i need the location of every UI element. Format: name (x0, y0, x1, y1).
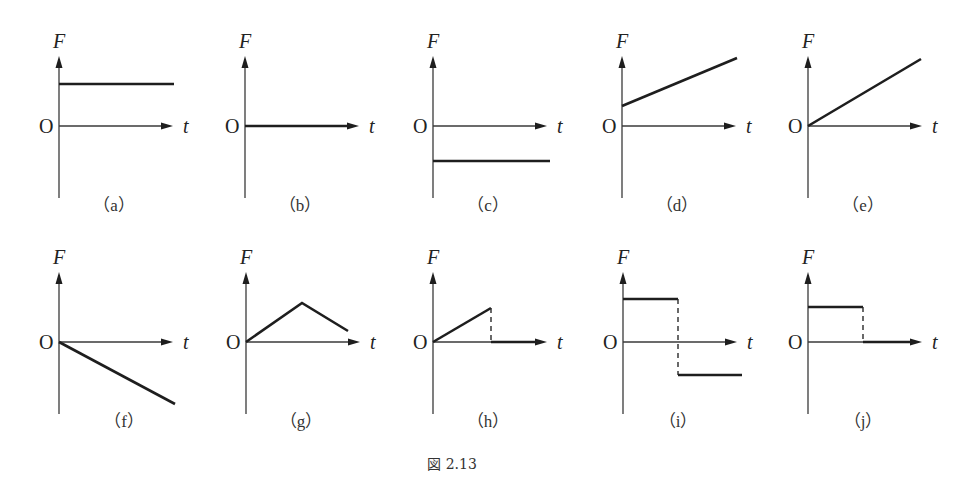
axis-label-f: F (801, 30, 815, 52)
data-line (246, 303, 348, 342)
axis-label-f: F (615, 30, 629, 52)
axis-label-t: t (932, 115, 938, 137)
axis-label-t: t (183, 331, 189, 353)
axes (619, 56, 737, 198)
origin-label: O (788, 331, 802, 353)
origin-label: O (225, 115, 239, 137)
origin-label: O (39, 331, 53, 353)
panel-label: （a） (93, 196, 135, 215)
panel-label: （f） (104, 412, 144, 431)
data-line-rise (433, 308, 491, 342)
origin-label: O (603, 331, 617, 353)
figure-2-13: F O t （a） F O t （b） F O t （c） F O t （d） … (0, 0, 964, 482)
origin-label: O (788, 115, 802, 137)
axis-label-f: F (52, 246, 66, 268)
axis-label-t: t (747, 331, 753, 353)
axis-label-t: t (557, 115, 563, 137)
axis-label-f: F (238, 30, 252, 52)
axis-label-f: F (616, 246, 630, 268)
panel-g: F O t （g） (226, 246, 376, 431)
panel-i: F O t （i） (603, 246, 753, 431)
panel-label: （d） (656, 196, 699, 215)
axes (805, 56, 923, 198)
panel-c: F O t （c） (413, 30, 563, 215)
axis-label-t: t (932, 331, 938, 353)
origin-label: O (602, 115, 616, 137)
data-line (622, 58, 737, 106)
axes (430, 56, 548, 198)
axis-label-f: F (52, 30, 66, 52)
panel-label: （j） (844, 412, 883, 431)
panel-label: （i） (659, 412, 698, 431)
panel-e: F O t （e） (788, 30, 938, 215)
axes (56, 56, 174, 198)
panel-f: F O t （f） (39, 246, 189, 431)
panel-label: （g） (280, 412, 323, 431)
data-line (808, 59, 921, 126)
axis-label-t: t (370, 331, 376, 353)
origin-label: O (39, 115, 53, 137)
axes (243, 272, 361, 414)
panel-label: （b） (279, 196, 322, 215)
panel-label: （c） (467, 196, 509, 215)
axis-label-t: t (557, 331, 563, 353)
origin-label: O (413, 331, 427, 353)
panel-j: F O t （j） (788, 246, 938, 431)
axis-label-f: F (426, 246, 440, 268)
origin-label: O (413, 115, 427, 137)
panel-d: F O t （d） (602, 30, 752, 215)
origin-label: O (226, 331, 240, 353)
panel-b: F O t （b） (225, 30, 375, 215)
axes (620, 272, 738, 414)
panel-label: （e） (842, 196, 884, 215)
data-line (59, 342, 175, 404)
axis-label-t: t (746, 115, 752, 137)
axis-label-t: t (369, 115, 375, 137)
axis-label-f: F (239, 246, 253, 268)
panel-label: （h） (467, 412, 510, 431)
panel-a: F O t （a） (39, 30, 189, 215)
panel-h: F O t （h） (413, 246, 563, 431)
axis-label-f: F (801, 246, 815, 268)
axis-label-f: F (426, 30, 440, 52)
axis-label-t: t (183, 115, 189, 137)
figure-caption: 図 2.13 (427, 456, 477, 472)
